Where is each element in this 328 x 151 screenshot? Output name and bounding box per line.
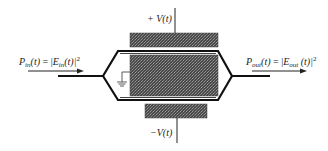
center-electrode [130, 55, 218, 96]
top-voltage-label: + V(t) [147, 14, 172, 24]
output-field-close: (t)| [298, 56, 313, 67]
input-field-close: (t)| [64, 56, 76, 67]
input-power-arg: (t) [31, 56, 40, 67]
output-exponent: 2 [313, 55, 317, 63]
input-exponent: 2 [76, 55, 80, 63]
output-arrow [252, 69, 307, 74]
bottom-electrode [145, 104, 207, 118]
top-electrode [130, 33, 218, 47]
output-field-sub: out [289, 61, 298, 69]
output-equals: = | [271, 56, 284, 67]
input-arrow [28, 69, 84, 74]
output-power-sub: out [252, 61, 261, 69]
bottom-voltage-label: −V(t) [150, 128, 172, 138]
input-power-label: Pin(t) = |Ein(t)|2 [19, 56, 80, 69]
output-power-label: Pout(t) = |Eout (t)|2 [246, 56, 316, 69]
ground-icon [117, 72, 130, 86]
output-power-arg: (t) [261, 56, 270, 67]
input-equals: = | [40, 56, 53, 67]
